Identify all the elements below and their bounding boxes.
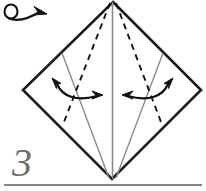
step-number: 3 [12,143,32,183]
